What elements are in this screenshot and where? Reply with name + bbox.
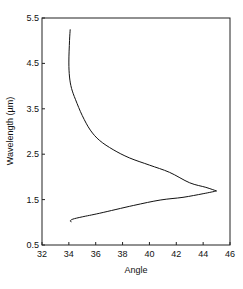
chart: 3234363840424446 0.51.52.53.54.55.5 Angl… <box>0 0 243 289</box>
x-tick-label: 46 <box>225 249 235 259</box>
y-tick-label: 2.5 <box>26 149 39 159</box>
x-tick-label: 32 <box>37 249 47 259</box>
x-tick-label: 44 <box>198 249 208 259</box>
x-tick-label: 38 <box>118 249 128 259</box>
plot-frame <box>42 18 230 245</box>
y-axis-title: Wavelength (µm) <box>5 97 15 165</box>
x-tick-label: 34 <box>64 249 74 259</box>
y-tick-label: 5.5 <box>26 13 39 23</box>
x-tick-label: 42 <box>171 249 181 259</box>
x-tick-label: 36 <box>91 249 101 259</box>
y-tick-label: 1.5 <box>26 195 39 205</box>
x-tick-label: 40 <box>144 249 154 259</box>
x-axis-title: Angle <box>124 265 147 275</box>
y-tick-label: 3.5 <box>26 104 39 114</box>
data-curve <box>69 29 217 222</box>
y-tick-label: 0.5 <box>26 240 39 250</box>
y-tick-label: 4.5 <box>26 58 39 68</box>
